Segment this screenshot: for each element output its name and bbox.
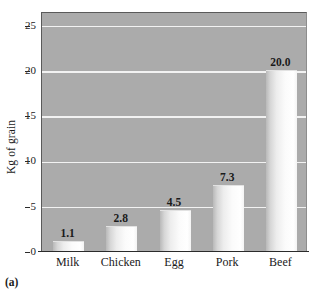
- x-axis-tick-label-pork: Pork: [197, 255, 257, 269]
- bar-value-label: 7.3: [201, 171, 253, 183]
- x-axis-line: [38, 251, 309, 253]
- x-axis-tick-label-chicken: Chicken: [91, 255, 151, 269]
- gridline: [42, 26, 306, 28]
- y-axis-tick-mark: [25, 161, 30, 162]
- figure-caption: (a): [5, 276, 18, 288]
- x-axis-tick-label-milk: Milk: [38, 255, 98, 269]
- bar-pork: [213, 185, 244, 252]
- y-axis-tick-mark: [25, 252, 30, 253]
- bar-value-label: 20.0: [254, 56, 306, 68]
- figure-bar-chart: Kg of grain 0510152025 (a) 1.1Milk2.8Chi…: [0, 0, 320, 297]
- bar-beef: [266, 70, 297, 252]
- bar-value-label: 2.8: [95, 212, 147, 224]
- bar-chicken: [106, 226, 137, 252]
- x-axis-tick-label-beef: Beef: [250, 255, 310, 269]
- bar-value-label: 1.1: [42, 227, 94, 239]
- y-axis-tick-mark: [25, 71, 30, 72]
- y-axis-tick-group: 0510152025: [0, 0, 36, 297]
- bar-value-label: 4.5: [148, 196, 200, 208]
- plot-area: [41, 12, 307, 252]
- y-axis-tick-mark: [25, 26, 30, 27]
- y-axis-tick-mark: [25, 207, 30, 208]
- x-axis-tick-label-egg: Egg: [144, 255, 204, 269]
- bar-egg: [160, 210, 191, 252]
- y-axis-tick-mark: [25, 116, 30, 117]
